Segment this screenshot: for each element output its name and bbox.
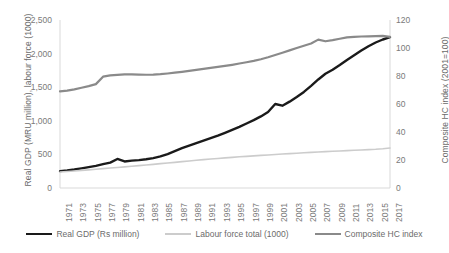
series-line-1 [60, 148, 390, 172]
legend-item[interactable]: Real GDP (Rs million) [26, 229, 139, 239]
chart-legend: Real GDP (Rs million)Labour force total … [0, 229, 449, 239]
chart-container: Real GDP (MRU million), labour force (10… [0, 0, 449, 253]
legend-label: Labour force total (1000) [195, 229, 288, 239]
plot-area [0, 0, 449, 253]
legend-label: Real GDP (Rs million) [56, 229, 139, 239]
legend-item[interactable]: Composite HC index [315, 229, 423, 239]
legend-line-swatch [315, 233, 341, 235]
legend-label: Composite HC index [345, 229, 423, 239]
legend-line-swatch [165, 233, 191, 235]
legend-item[interactable]: Labour force total (1000) [165, 229, 288, 239]
legend-line-swatch [26, 233, 52, 235]
